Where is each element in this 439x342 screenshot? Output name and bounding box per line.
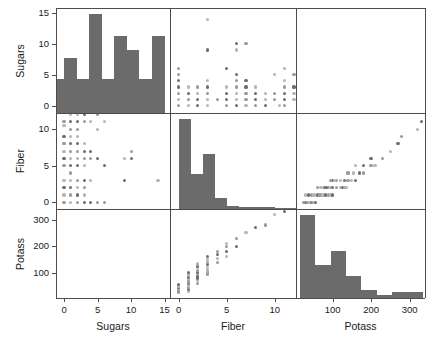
x-tick-label: 0 bbox=[176, 304, 181, 315]
y-tick bbox=[52, 13, 56, 14]
scatter-point bbox=[69, 179, 72, 182]
scatter-point bbox=[177, 92, 180, 95]
panel-fiber-sugars bbox=[56, 113, 170, 209]
scatter-point bbox=[283, 79, 286, 82]
x-tick-label: 100 bbox=[325, 304, 341, 315]
scatter-point bbox=[225, 67, 228, 70]
scatter-point bbox=[225, 255, 228, 258]
scatter-point bbox=[206, 18, 209, 21]
y-tick bbox=[52, 44, 56, 45]
scatter-point bbox=[69, 142, 72, 145]
scatter-point bbox=[235, 48, 238, 51]
histogram-bar bbox=[361, 290, 376, 298]
scatter-point bbox=[316, 186, 319, 189]
y-tick bbox=[52, 273, 56, 274]
scatter-point bbox=[62, 150, 65, 153]
scatter-point bbox=[225, 245, 228, 248]
scatter-point bbox=[76, 150, 79, 153]
scatter-point bbox=[123, 179, 126, 182]
panel-sugars-fiber bbox=[170, 8, 296, 113]
scatter-point bbox=[273, 92, 276, 95]
scatter-point bbox=[62, 124, 65, 127]
scatter-point bbox=[319, 186, 322, 189]
scatter-point bbox=[187, 92, 190, 95]
scatter-point bbox=[62, 186, 65, 189]
scatter-point bbox=[344, 186, 347, 189]
y-tick-label: 15 bbox=[38, 7, 49, 18]
x-axis-title-sugars: Sugars bbox=[96, 320, 129, 332]
histogram-bar bbox=[139, 79, 152, 113]
scatter-point bbox=[206, 92, 209, 95]
y-tick bbox=[52, 202, 56, 203]
scatter-point bbox=[62, 164, 65, 167]
panel-sugars-potass bbox=[296, 8, 425, 113]
scatter-point bbox=[103, 164, 106, 167]
scatter-point bbox=[254, 104, 257, 107]
x-tick bbox=[275, 298, 276, 302]
scatter-point bbox=[187, 85, 190, 88]
scatter-point bbox=[331, 186, 334, 189]
scatter-point bbox=[69, 171, 72, 174]
y-tick-label: 5 bbox=[44, 69, 49, 80]
scatter-point bbox=[69, 157, 72, 160]
scatter-point bbox=[216, 250, 219, 253]
scatter-point bbox=[400, 135, 403, 138]
histogram-bar bbox=[89, 14, 102, 113]
scatter-point bbox=[283, 210, 286, 213]
scatter-point bbox=[206, 85, 209, 88]
scatter-point bbox=[177, 73, 180, 76]
histogram-bar bbox=[152, 36, 165, 113]
scatter-point bbox=[354, 179, 357, 182]
scatter-point bbox=[235, 245, 238, 248]
histogram-bar bbox=[203, 154, 215, 209]
scatter-point bbox=[69, 193, 72, 196]
x-tick bbox=[165, 298, 166, 302]
scatter-point bbox=[89, 201, 92, 204]
y-tick bbox=[52, 166, 56, 167]
scatter-point bbox=[83, 142, 86, 145]
scatter-point bbox=[278, 104, 281, 107]
scatter-point bbox=[196, 92, 199, 95]
y-tick-label: 100 bbox=[33, 267, 49, 278]
scatter-point bbox=[244, 92, 247, 95]
histogram-bar bbox=[315, 265, 330, 298]
scatter-point bbox=[177, 291, 180, 294]
scatter-point bbox=[362, 164, 365, 167]
scatter-point bbox=[420, 120, 423, 123]
histogram-bar bbox=[215, 198, 227, 209]
scatter-point bbox=[225, 85, 228, 88]
scatter-point bbox=[177, 79, 180, 82]
scatter-point bbox=[235, 79, 238, 82]
y-tick bbox=[52, 75, 56, 76]
y-tick-label: 10 bbox=[38, 38, 49, 49]
scatter-point bbox=[346, 179, 349, 182]
x-tick-label: 15 bbox=[159, 304, 170, 315]
scatter-point bbox=[244, 42, 247, 45]
y-tick-label: 0 bbox=[44, 100, 49, 111]
scatter-point bbox=[264, 223, 267, 226]
scatter-point bbox=[350, 179, 353, 182]
y-tick bbox=[52, 220, 56, 221]
scatter-point bbox=[216, 253, 219, 256]
scatter-point bbox=[83, 179, 86, 182]
scatter-point bbox=[69, 150, 72, 153]
scatter-point bbox=[89, 157, 92, 160]
x-tick-label: 5 bbox=[95, 304, 100, 315]
scatter-point bbox=[187, 98, 190, 101]
scatter-point bbox=[273, 213, 276, 216]
y-tick bbox=[52, 106, 56, 107]
scatter-point bbox=[177, 104, 180, 107]
scatter-point bbox=[225, 250, 228, 253]
scatter-point bbox=[352, 171, 355, 174]
scatter-point bbox=[69, 186, 72, 189]
scatter-point bbox=[244, 98, 247, 101]
scatter-point bbox=[389, 150, 392, 153]
histogram-bar bbox=[102, 79, 115, 113]
scatter-point bbox=[216, 261, 219, 264]
panel-gridline-horizontal bbox=[56, 8, 425, 9]
scatter-point bbox=[123, 157, 126, 160]
scatter-point bbox=[69, 128, 72, 131]
scatter-point bbox=[196, 98, 199, 101]
scatter-point bbox=[76, 157, 79, 160]
scatter-point bbox=[156, 179, 159, 182]
